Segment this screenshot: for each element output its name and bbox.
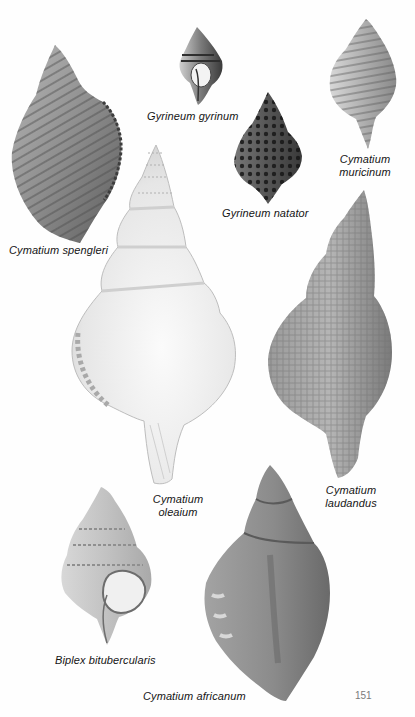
shell-illustration-cymatium-muricinum	[326, 17, 400, 152]
caption-biplex-bitubercularis: Biplex bitubercularis	[55, 654, 156, 667]
shell-illustration-biplex-bitubercularis	[57, 485, 157, 647]
caption-cymatium-africanum: Cymatium africanum	[143, 690, 246, 703]
caption-cymatium-muricinum: Cymatium muricinum	[326, 153, 404, 179]
book-page: Cymatium spengleri Gyrineum gyrinum	[0, 0, 415, 717]
caption-cymatium-oleaium: Cymatium oleaium	[148, 493, 208, 519]
caption-gyrineum-gyrinum: Gyrineum gyrinum	[147, 110, 238, 123]
shell-illustration-cymatium-africanum	[200, 463, 332, 703]
caption-line: oleaium	[148, 506, 208, 519]
shell-illustration-cymatium-laudandus	[262, 188, 397, 480]
caption-line: Cymatium	[326, 153, 404, 166]
shell-illustration-cymatium-oleaium	[68, 143, 248, 488]
page-number: 151	[355, 690, 372, 701]
caption-line: Cymatium	[148, 493, 208, 506]
shell-illustration-gyrineum-gyrinum	[176, 27, 226, 107]
caption-line: muricinum	[326, 166, 404, 179]
